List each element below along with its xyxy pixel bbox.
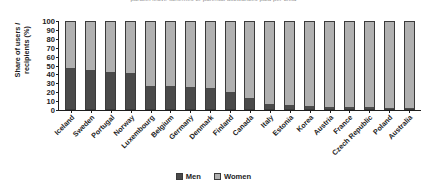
stacked-bar: [404, 21, 415, 110]
bar-column: [300, 21, 320, 110]
bar-segment-women: [206, 22, 215, 88]
bar-group: [59, 21, 421, 110]
stacked-bar: [384, 21, 395, 110]
bar-segment-women: [305, 22, 314, 106]
bar-column: [81, 21, 101, 110]
bar-segment-men: [186, 87, 195, 109]
y-axis-title-line1: Share of users /: [13, 23, 22, 78]
bar-column: [240, 21, 260, 110]
bar-segment-men: [66, 68, 75, 109]
bar-column: [399, 21, 419, 110]
bar-segment-men: [305, 106, 314, 109]
stacked-bar: [225, 21, 236, 110]
bar-column: [339, 21, 359, 110]
legend-label: Men: [186, 172, 201, 181]
bar-segment-women: [325, 22, 334, 107]
x-axis-label-slot: Italy: [259, 112, 279, 164]
stacked-bar: [344, 21, 355, 110]
legend-item-men[interactable]: Men: [176, 172, 201, 181]
bar-segment-women: [365, 22, 374, 107]
bar-segment-women: [226, 22, 235, 92]
bar-segment-men: [226, 92, 235, 109]
bar-segment-men: [146, 86, 155, 109]
stacked-bar: [165, 21, 176, 110]
y-axis-title: Share of users / recipients (%): [13, 8, 31, 93]
stacked-bar: [284, 21, 295, 110]
x-axis-label-slot: Denmark: [199, 112, 219, 164]
x-axis-label-slot: Finland: [219, 112, 239, 164]
bar-segment-women: [186, 22, 195, 87]
chart-title-clipped: parallel leave schemes or parental allow…: [0, 0, 427, 7]
bar-segment-women: [126, 22, 135, 73]
bar-column: [280, 21, 300, 110]
bar-segment-women: [405, 22, 414, 108]
bar-segment-men: [206, 88, 215, 109]
bar-segment-men: [126, 73, 135, 109]
x-axis-label-slot: Estonia: [279, 112, 299, 164]
bar-segment-women: [245, 22, 254, 98]
bar-column: [61, 21, 81, 110]
bar-segment-men: [405, 108, 414, 109]
y-axis-title-line2: recipients (%): [22, 26, 31, 74]
legend-label: Women: [224, 172, 251, 181]
stacked-bar: [324, 21, 335, 110]
x-axis-label-slot: Czech Republic: [358, 112, 378, 164]
bar-column: [200, 21, 220, 110]
bar-column: [121, 21, 141, 110]
bar-column: [359, 21, 379, 110]
bar-column: [379, 21, 399, 110]
bar-column: [160, 21, 180, 110]
x-axis-label: Italy: [259, 113, 276, 130]
x-axis-labels: IcelandSwedenPortugalNorwayLuxembourgBel…: [58, 112, 420, 164]
plot-area: 1009080706050403020100: [58, 21, 421, 111]
stacked-bar: [85, 21, 96, 110]
bar-column: [260, 21, 280, 110]
stacked-bar: [244, 21, 255, 110]
bar-segment-women: [86, 22, 95, 70]
bar-segment-men: [365, 107, 374, 109]
bar-segment-men: [245, 98, 254, 109]
x-axis-label-slot: Portugal: [100, 112, 120, 164]
bar-segment-women: [106, 22, 115, 72]
bar-segment-men: [385, 108, 394, 109]
stacked-bar: [105, 21, 116, 110]
bar-segment-women: [146, 22, 155, 86]
bar-column: [220, 21, 240, 110]
bar-segment-men: [166, 86, 175, 109]
bar-column: [180, 21, 200, 110]
bar-segment-men: [86, 70, 95, 109]
stacked-bar: [185, 21, 196, 110]
y-axis-tick-mark: [56, 110, 59, 111]
bar-segment-men: [106, 72, 115, 109]
stacked-bar: [264, 21, 275, 110]
stacked-bar: [304, 21, 315, 110]
x-axis-label-slot: Canada: [239, 112, 259, 164]
bar-segment-women: [285, 22, 294, 105]
bar-segment-men: [345, 107, 354, 109]
chart-title-text: parallel leave schemes or parental allow…: [130, 0, 296, 2]
chart-legend: MenWomen: [0, 172, 427, 181]
bar-segment-women: [166, 22, 175, 86]
bar-segment-men: [285, 105, 294, 109]
bar-segment-women: [66, 22, 75, 68]
chart-figure: parallel leave schemes or parental allow…: [0, 0, 427, 185]
stacked-bar: [65, 21, 76, 110]
bar-segment-women: [385, 22, 394, 108]
bar-segment-men: [265, 104, 274, 109]
bar-segment-men: [325, 107, 334, 109]
bar-segment-women: [345, 22, 354, 107]
stacked-bar: [125, 21, 136, 110]
legend-item-women[interactable]: Women: [214, 172, 251, 181]
stacked-bar: [145, 21, 156, 110]
stacked-bar: [205, 21, 216, 110]
bar-column: [101, 21, 121, 110]
x-axis-label-slot: Australia: [398, 112, 418, 164]
bar-column: [320, 21, 340, 110]
legend-swatch-women-icon: [214, 173, 221, 180]
bar-column: [141, 21, 161, 110]
stacked-bar: [364, 21, 375, 110]
bar-segment-women: [265, 22, 274, 104]
legend-swatch-men-icon: [176, 173, 183, 180]
x-axis-label-slot: Korea: [299, 112, 319, 164]
